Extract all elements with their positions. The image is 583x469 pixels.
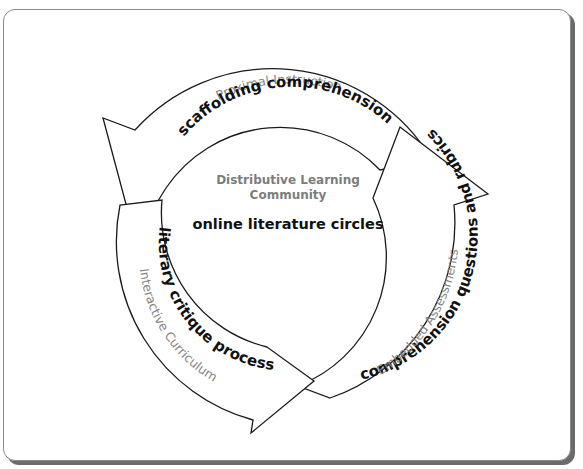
center-subtitle: Distributive Learning Community: [188, 173, 388, 203]
center-title: online literature circles: [188, 215, 388, 233]
cycle-diagram: Proximal Instruction scaffolding compreh…: [0, 0, 583, 469]
arrow-literary-critique: [116, 200, 314, 433]
